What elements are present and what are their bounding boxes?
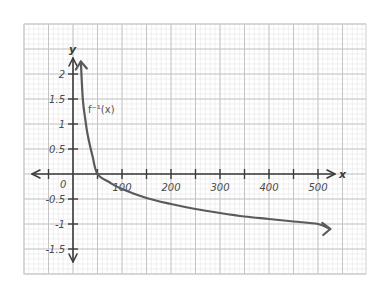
y-axis-label: y [69, 43, 77, 56]
y-tick-label: 1.5 [49, 94, 65, 105]
x-tick-label: 200 [161, 182, 180, 193]
origin-label: 0 [60, 179, 66, 190]
x-tick-label: 400 [259, 182, 278, 193]
x-tick-label: 500 [308, 182, 327, 193]
y-tick-label: 0.5 [49, 144, 65, 155]
x-tick-label: 300 [210, 182, 229, 193]
x-axis-label: x [338, 168, 347, 181]
function-label: f⁻¹(x) [88, 104, 115, 115]
y-tick-label: -0.5 [45, 194, 65, 205]
y-tick-label: -1 [55, 219, 65, 230]
y-tick-label: 2 [59, 69, 65, 80]
function-graph: 10020030040050021.510.5-0.5-1-1.5 x y 0 … [0, 0, 378, 288]
y-tick-label: 1 [59, 119, 65, 130]
y-tick-label: -1.5 [45, 244, 65, 255]
